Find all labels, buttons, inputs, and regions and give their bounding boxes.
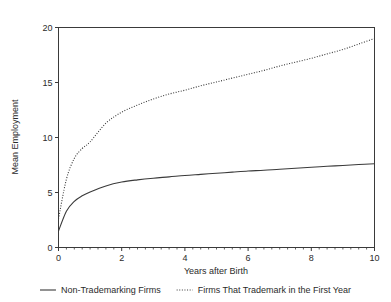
x-tick-label: 6 [246, 253, 251, 263]
legend-label-1: Non-Trademarking Firms [61, 285, 161, 295]
x-axis-title: Years after Birth [184, 266, 248, 276]
series-line-1 [59, 164, 375, 231]
data-series-group [59, 39, 375, 232]
x-tick-label: 10 [369, 253, 379, 263]
x-tick-label: 0 [56, 253, 61, 263]
chart-figure: 05101520 0246810 Years after Birth Mean … [0, 0, 391, 302]
y-tick-label: 5 [47, 188, 52, 198]
legend-label-2: Firms That Trademark in the First Year [198, 285, 351, 295]
y-tick-label: 0 [47, 243, 52, 253]
line-chart: 05101520 0246810 Years after Birth Mean … [0, 0, 391, 302]
chart-legend: Non-Trademarking FirmsFirms That Tradema… [40, 285, 351, 295]
y-axis-title: Mean Employment [10, 99, 20, 175]
y-tick-label: 20 [42, 23, 52, 33]
series-line-2 [59, 39, 375, 219]
x-axis: 0246810 [56, 248, 380, 263]
y-axis: 05101520 [42, 23, 58, 253]
y-tick-label: 10 [42, 133, 52, 143]
x-tick-label: 8 [309, 253, 314, 263]
y-tick-label: 15 [42, 78, 52, 88]
x-tick-label: 2 [119, 253, 124, 263]
plot-frame [59, 28, 375, 248]
x-tick-label: 4 [182, 253, 187, 263]
